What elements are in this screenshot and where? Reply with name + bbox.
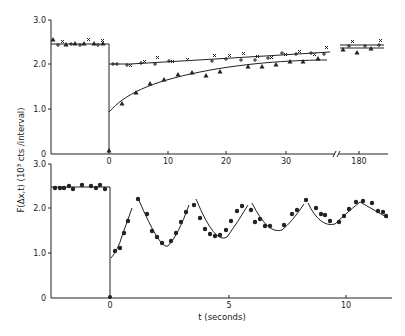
y-tick-label: 3.0 <box>33 160 46 169</box>
figure: 3.0 2.0 1.0 0 0 10 20 30 180 <box>0 0 405 336</box>
y-tick-label: 0 <box>41 150 46 159</box>
x-tick-label: 10 <box>163 157 173 166</box>
top-cross-markers <box>56 38 382 67</box>
x-tick-label: 0 <box>107 301 112 310</box>
x-tick-label: 180 <box>351 157 366 166</box>
x-tick-label: 20 <box>221 157 231 166</box>
top-triangle-fit <box>109 60 327 112</box>
x-tick-label: 5 <box>226 301 231 310</box>
top-panel <box>48 20 388 157</box>
y-tick-label: 0 <box>41 294 46 303</box>
y-tick-label: 2.0 <box>33 204 46 213</box>
top-prestep-line <box>51 44 109 154</box>
top-tick-labels: 3.0 2.0 1.0 0 0 10 20 30 180 <box>33 16 366 166</box>
y-tick-label: 1.0 <box>33 249 46 258</box>
y-tick-label: 1.0 <box>33 105 46 114</box>
y-tick-label: 2.0 <box>33 60 46 69</box>
x-tick-label: 0 <box>106 157 111 166</box>
bottom-prestep-line <box>51 187 110 298</box>
x-axis-title: t (seconds) <box>198 312 245 322</box>
y-axis-title: F(Δx,t) (10³ cts /interval) <box>16 107 26 212</box>
x-tick-label: 10 <box>341 301 351 310</box>
bottom-dot-markers <box>53 183 388 299</box>
y-tick-label: 3.0 <box>33 16 46 25</box>
x-tick-label: 30 <box>281 157 291 166</box>
